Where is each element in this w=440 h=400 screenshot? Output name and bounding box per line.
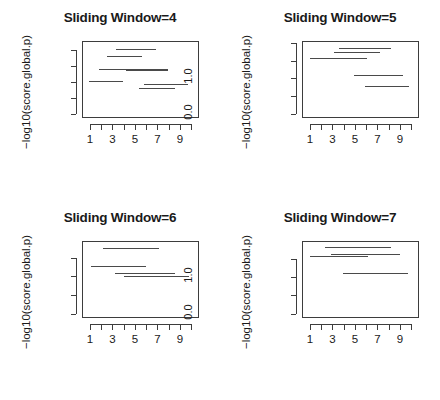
x-axis-tick	[321, 124, 322, 130]
y-axis-label: −log10(score.global.p)	[20, 222, 32, 362]
x-axis-tick	[310, 324, 311, 330]
x-axis-tick	[90, 124, 91, 130]
y-axis-tick-label: 0.0	[182, 92, 194, 132]
y-axis-tick	[71, 66, 76, 67]
y-axis-tick	[291, 43, 296, 44]
x-axis-tick	[112, 124, 113, 130]
y-axis-tick	[291, 259, 296, 260]
panel-title-text: Sliding Window=6	[64, 210, 177, 225]
x-axis-tick	[321, 324, 322, 330]
panel-sliding-window-7: Sliding Window=7−log10(score.global.p)0.…	[220, 200, 440, 400]
data-segment	[343, 273, 408, 274]
x-axis-tick-label: 7	[147, 133, 167, 145]
x-axis-tick-label: 3	[322, 333, 342, 345]
panel-title-text: Sliding Window=7	[284, 210, 397, 225]
y-axis-tick	[71, 50, 76, 51]
y-axis-label: −log10(score.global.p)	[240, 22, 252, 162]
x-axis-tick-label: 1	[300, 133, 320, 145]
x-axis-tick-label: 5	[125, 333, 145, 345]
x-axis-tick	[146, 124, 147, 130]
x-axis-tick-label: 1	[80, 333, 100, 345]
y-axis-line	[76, 50, 77, 114]
x-axis-tick-label: 3	[322, 133, 342, 145]
y-axis-tick	[71, 258, 76, 259]
data-segment	[126, 70, 168, 71]
y-axis-line	[296, 43, 297, 114]
x-axis-tick	[344, 124, 345, 130]
x-axis-tick	[169, 324, 170, 330]
x-axis-tick-label: 9	[390, 333, 410, 345]
x-axis-tick	[169, 124, 170, 130]
panel-title: Sliding Window=7	[220, 210, 440, 225]
x-axis-tick	[101, 324, 102, 330]
x-axis-tick	[310, 124, 311, 130]
panel-sliding-window-5: Sliding Window=5−log10(score.global.p)0.…	[220, 0, 440, 200]
x-axis-tick-label: 5	[345, 133, 365, 145]
x-axis-tick	[157, 324, 158, 330]
x-axis-tick	[135, 324, 136, 330]
y-axis-tick	[71, 114, 76, 115]
y-axis-tick	[291, 96, 296, 97]
y-axis-tick	[71, 98, 76, 99]
data-segment	[310, 58, 367, 59]
x-axis-tick	[135, 124, 136, 130]
x-axis-line	[90, 324, 191, 325]
x-axis-tick-label: 9	[170, 133, 190, 145]
data-segment	[91, 266, 146, 267]
x-axis-tick-label: 1	[300, 333, 320, 345]
y-axis-tick-label: 1.0	[182, 255, 194, 295]
panel-title-text: Sliding Window=4	[64, 10, 177, 25]
x-axis-tick	[124, 324, 125, 330]
x-axis-tick-label: 9	[390, 133, 410, 145]
y-axis-line	[296, 259, 297, 313]
x-axis-tick	[355, 324, 356, 330]
x-axis-tick	[366, 124, 367, 130]
panel-title-text: Sliding Window=5	[284, 10, 397, 25]
panel-title: Sliding Window=5	[220, 10, 440, 25]
x-axis-tick	[90, 324, 91, 330]
y-axis-tick	[71, 314, 76, 315]
data-segment	[124, 276, 189, 277]
x-axis-line	[310, 124, 411, 125]
y-axis-tick	[71, 82, 76, 83]
x-axis-tick-label: 1	[80, 133, 100, 145]
y-axis-tick	[291, 114, 296, 115]
x-axis-tick	[146, 324, 147, 330]
data-segment	[139, 88, 175, 89]
x-axis-tick	[411, 324, 412, 330]
x-axis-tick-label: 7	[147, 333, 167, 345]
y-axis-tick	[291, 277, 296, 278]
x-axis-tick	[377, 124, 378, 130]
data-segment	[89, 81, 123, 82]
x-axis-tick	[180, 324, 181, 330]
y-axis-label: −log10(score.global.p)	[240, 222, 252, 362]
y-axis-tick	[291, 61, 296, 62]
x-axis-tick-label: 5	[345, 333, 365, 345]
plot-box	[302, 241, 419, 318]
x-axis-tick	[411, 124, 412, 130]
data-segment	[325, 247, 391, 248]
y-axis-line	[76, 258, 77, 314]
x-axis-tick	[389, 324, 390, 330]
x-axis-tick	[180, 124, 181, 130]
x-axis-tick	[389, 124, 390, 130]
x-axis-tick-label: 9	[170, 333, 190, 345]
data-segment	[107, 56, 142, 57]
data-segment	[339, 48, 391, 49]
x-axis-tick-label: 7	[367, 133, 387, 145]
y-axis-tick-label: 0.0	[182, 292, 194, 332]
data-segment	[365, 86, 409, 87]
data-segment	[334, 52, 380, 53]
x-axis-tick	[355, 124, 356, 130]
data-segment	[310, 256, 369, 257]
x-axis-tick	[400, 324, 401, 330]
data-segment	[354, 75, 404, 76]
x-axis-tick	[124, 124, 125, 130]
y-axis-tick	[71, 276, 76, 277]
y-axis-tick	[291, 314, 296, 315]
y-axis-tick	[291, 295, 296, 296]
x-axis-tick-label: 5	[125, 133, 145, 145]
data-segment	[116, 49, 157, 50]
x-axis-tick	[344, 324, 345, 330]
x-axis-tick	[157, 124, 158, 130]
